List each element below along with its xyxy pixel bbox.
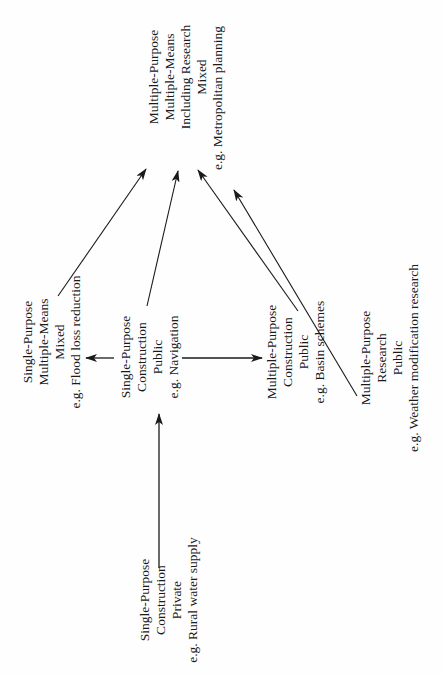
- node-navigation-line-2: Construction: [134, 302, 150, 412]
- node-hub-line-1: Multiple-Purpose: [146, 0, 162, 172]
- node-hub-line-5: e.g. Metropolitan planning: [210, 0, 226, 172]
- node-flood-line-4: e.g. Flood loss reduction: [68, 252, 84, 432]
- node-basin-line-4: e.g. Basin schemes: [312, 296, 328, 408]
- node-hub-line-2: Multiple-Means: [162, 0, 178, 172]
- node-hub-line-3: Including Research: [178, 0, 194, 172]
- node-navigation-line-3: Public: [150, 302, 166, 412]
- node-rural-line-3: Private: [169, 530, 185, 670]
- node-flood-line-1: Single-Purpose: [20, 252, 36, 432]
- node-rural-line-2: Construction: [153, 530, 169, 670]
- node-rural: Single-Purpose Construction Private e.g.…: [137, 530, 201, 670]
- node-basin: Multiple-Purpose Construction Public e.g…: [264, 296, 328, 408]
- node-hub-line-4: Mixed: [194, 0, 210, 172]
- diagram-page: Multiple-Purpose Multiple-Means Includin…: [0, 0, 442, 676]
- arrow-basin-to-hub: [198, 170, 298, 311]
- node-weather-line-1: Multiple-Purpose: [358, 254, 374, 462]
- node-rural-line-4: e.g. Rural water supply: [185, 530, 201, 670]
- node-hub: Multiple-Purpose Multiple-Means Includin…: [146, 0, 226, 172]
- node-weather-line-4: e.g. Weather modification research: [406, 254, 422, 462]
- node-navigation-line-1: Single-Purpose: [118, 302, 134, 412]
- arrow-navigation-to-hub: [147, 171, 178, 306]
- node-rural-line-1: Single-Purpose: [137, 530, 153, 670]
- node-weather-line-2: Research: [374, 254, 390, 462]
- node-flood-line-2: Multiple-Means: [36, 252, 52, 432]
- node-flood: Single-Purpose Multiple-Means Mixed e.g.…: [20, 252, 84, 432]
- node-weather-line-3: Public: [390, 254, 406, 462]
- node-basin-line-3: Public: [296, 296, 312, 408]
- node-basin-line-1: Multiple-Purpose: [264, 296, 280, 408]
- node-weather: Multiple-Purpose Research Public e.g. We…: [358, 254, 422, 462]
- node-navigation: Single-Purpose Construction Public e.g. …: [118, 302, 182, 412]
- node-flood-line-3: Mixed: [52, 252, 68, 432]
- node-navigation-line-4: e.g. Navigation: [166, 302, 182, 412]
- node-basin-line-2: Construction: [280, 296, 296, 408]
